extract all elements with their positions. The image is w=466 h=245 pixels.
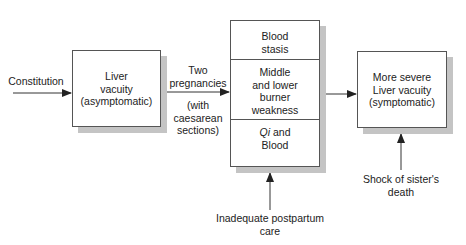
- caesarean-line-1: (with: [164, 99, 232, 112]
- liver-vacuity-line-2: vacuity: [73, 83, 160, 96]
- shock-label: Shock of sister's death: [350, 173, 452, 198]
- shock-line-2: death: [350, 186, 452, 199]
- postpartum-label: Inadequate postpartum care: [205, 212, 335, 237]
- blood-stasis-section: Blood stasis: [231, 30, 319, 55]
- burner-line-2: and lower: [231, 79, 319, 92]
- blood-stasis-line-1: Blood: [231, 30, 319, 43]
- constitution-label: Constitution: [2, 75, 70, 88]
- and-text: and: [270, 126, 290, 138]
- shock-line-1: Shock of sister's: [350, 173, 452, 186]
- liver-vacuity-box: Liver vacuity (asymptomatic): [72, 50, 161, 127]
- postpartum-line-2: care: [205, 225, 335, 238]
- two-pregnancies-line-1: Two: [164, 64, 232, 77]
- divider-2: [231, 119, 319, 120]
- qi-blood-line-1: Qi and: [231, 126, 319, 139]
- caesarean-label: (with caesarean sections): [164, 99, 232, 137]
- two-pregnancies-label: Two pregnancies: [164, 64, 232, 89]
- liver-vacuity-line-3: (asymptomatic): [73, 95, 160, 108]
- burner-line-4: weakness: [231, 104, 319, 117]
- postpartum-line-1: Inadequate postpartum: [205, 212, 335, 225]
- caesarean-line-2: caesarean: [164, 112, 232, 125]
- burner-weakness-section: Middle and lower burner weakness: [231, 66, 319, 116]
- qi-text: Qi: [260, 126, 271, 138]
- divider-1: [231, 59, 319, 60]
- qi-blood-section: Qi and Blood: [231, 126, 319, 151]
- center-box: Blood stasis Middle and lower burner wea…: [230, 20, 320, 167]
- severe-line-3: (symptomatic): [358, 96, 446, 109]
- caesarean-line-3: sections): [164, 124, 232, 137]
- severe-line-2: Liver vacuity: [358, 84, 446, 97]
- liver-vacuity-line-1: Liver: [73, 70, 160, 83]
- burner-line-1: Middle: [231, 66, 319, 79]
- two-pregnancies-line-2: pregnancies: [164, 77, 232, 90]
- burner-line-3: burner: [231, 91, 319, 104]
- qi-blood-line-2: Blood: [231, 139, 319, 152]
- severe-liver-vacuity-box: More severe Liver vacuity (symptomatic): [357, 51, 447, 128]
- severe-line-1: More severe: [358, 71, 446, 84]
- blood-stasis-line-2: stasis: [231, 43, 319, 56]
